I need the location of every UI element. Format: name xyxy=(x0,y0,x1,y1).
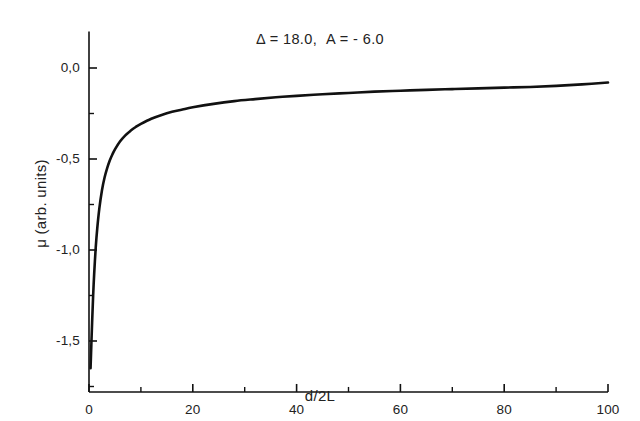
y-tick-label: -1,0 xyxy=(56,242,80,257)
x-tick-label: 80 xyxy=(474,402,534,417)
figure-canvas: Δ = 18.0, A = - 6.0 d/2L μ (arb. units) … xyxy=(0,0,640,421)
y-axis-ticks xyxy=(89,68,97,387)
y-tick-label: -0,5 xyxy=(56,151,80,166)
curve-mu xyxy=(91,83,608,369)
data-series-group xyxy=(91,83,608,369)
y-axis-label: μ (arb. units) xyxy=(33,104,48,304)
x-tick-label: 100 xyxy=(578,402,638,417)
y-tick-label: 0,0 xyxy=(61,60,80,75)
y-tick-label: -1,5 xyxy=(56,333,80,348)
chart-annotation: Δ = 18.0, A = - 6.0 xyxy=(0,32,640,47)
x-tick-label: 40 xyxy=(267,402,327,417)
x-tick-label: 0 xyxy=(59,402,119,417)
x-tick-label: 60 xyxy=(370,402,430,417)
x-axis-label: d/2L xyxy=(0,388,640,403)
x-tick-label: 20 xyxy=(163,402,223,417)
plot-area xyxy=(0,0,640,421)
